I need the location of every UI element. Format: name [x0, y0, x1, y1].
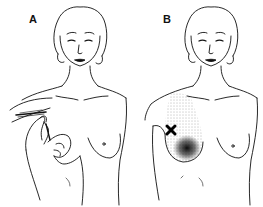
panel-b: B: [131, 0, 263, 207]
panel-a: A: [0, 0, 131, 207]
panel-a-illustration: [0, 0, 131, 207]
panel-b-illustration: [131, 0, 263, 207]
